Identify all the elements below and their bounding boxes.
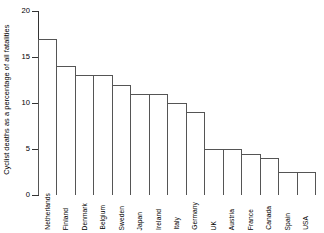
bar-netherlands[interactable] [38,39,57,195]
y-tick-label-10: 10 [4,99,30,107]
y-tick-label-15: 15 [4,53,30,61]
bar-label-finland: Finland [63,208,70,230]
bar-label-uk: UK [211,221,218,230]
bar-label-japan: Japan [137,212,144,230]
y-tick-label-5: 5 [4,145,30,153]
bar-spain[interactable] [278,172,297,195]
bar-belgium[interactable] [93,75,112,195]
bar-label-italy: Italy [174,217,181,230]
bar-label-netherlands: Netherlands [44,193,51,230]
bar-italy[interactable] [167,103,186,195]
bar-canada[interactable] [260,158,279,195]
bar-label-denmark: Denmark [81,203,88,230]
bar-label-belgium: Belgium [100,205,107,230]
bar-uk[interactable] [204,149,223,195]
bar-denmark[interactable] [75,75,94,195]
bar-label-canada: Canada [266,206,273,230]
bar-label-spain: Spain [284,213,291,230]
bar-austria[interactable] [223,149,242,195]
bar-finland[interactable] [56,66,75,195]
bar-chart: Cyclist deaths as a percentage of all fa… [0,0,324,233]
y-tick-label-20: 20 [4,7,30,15]
bar-usa[interactable] [297,172,316,195]
bar-label-germany: Germany [192,202,199,230]
bar-label-france: France [248,209,255,230]
plot-area: NetherlandsFinlandDenmarkBelgiumSwedenJa… [38,11,315,195]
bar-germany[interactable] [186,112,205,195]
bar-japan[interactable] [130,94,149,195]
bar-label-ireland: Ireland [155,209,162,230]
bar-label-sweden: Sweden [118,206,125,230]
bar-ireland[interactable] [149,94,168,195]
y-tick-label-0: 0 [4,191,30,199]
bar-label-austria: Austria [229,209,236,230]
bar-sweden[interactable] [112,85,131,195]
bar-label-usa: USA [303,216,310,230]
bar-france[interactable] [241,154,260,195]
y-tick-0 [32,195,38,196]
